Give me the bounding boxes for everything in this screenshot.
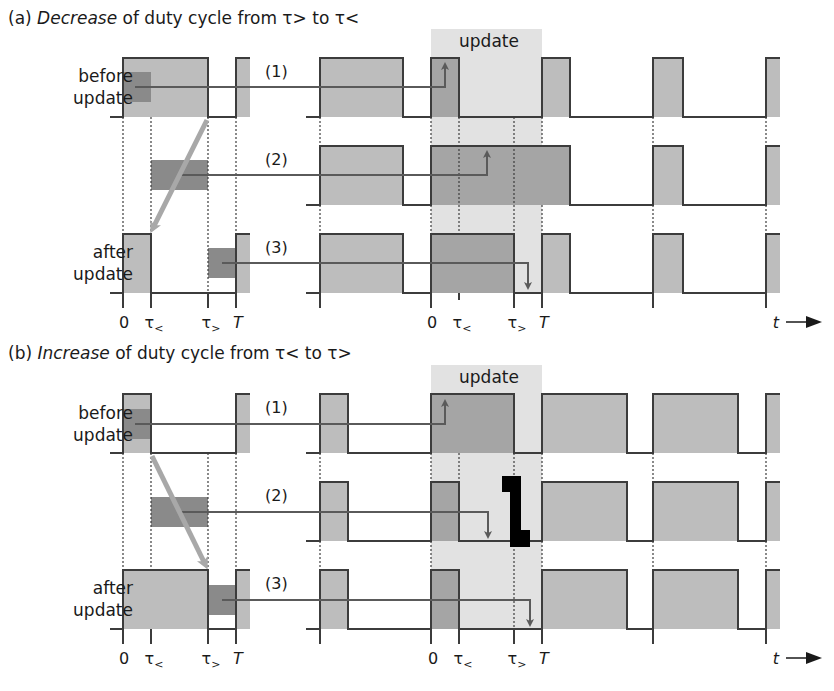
tick-tau-less: τ< [145, 649, 164, 671]
row-label-after-update: after update [13, 577, 133, 621]
row-label-after-update: after update [13, 241, 133, 285]
tick-tau-less: τ< [145, 313, 164, 335]
time-axis-label: t [773, 649, 779, 668]
tick-tau-less: τ< [454, 649, 473, 671]
case-label-2: (2) [265, 486, 288, 505]
tick-0: 0 [119, 313, 129, 332]
tick-0: 0 [427, 313, 437, 332]
case-label-3: (3) [265, 238, 288, 257]
row-label-before-update: before update [13, 65, 133, 109]
tick-tau-greater: τ> [202, 313, 221, 335]
tick-T: T [233, 313, 243, 332]
panel-b [110, 365, 822, 664]
arrow-case-1 [135, 403, 445, 424]
case-label-1: (1) [265, 62, 288, 81]
tick-tau-greater: τ> [508, 313, 527, 335]
tick-tau-less: τ< [453, 313, 472, 335]
time-axis-label: t [773, 313, 779, 332]
case-label-2: (2) [265, 150, 288, 169]
row-label-before-update: before update [13, 402, 133, 446]
update-label: update [459, 31, 519, 51]
tick-T: T [539, 649, 549, 668]
panel-a [110, 29, 822, 328]
tick-0: 0 [428, 649, 438, 668]
time-arrow-icon [806, 652, 822, 664]
update-label: update [459, 367, 519, 387]
tick-T: T [233, 649, 243, 668]
tick-tau-greater: τ> [508, 649, 527, 671]
case-label-1: (1) [265, 398, 288, 417]
tick-T: T [539, 313, 549, 332]
case-label-3: (3) [265, 574, 288, 593]
time-arrow-icon [806, 316, 822, 328]
tick-tau-greater: τ> [202, 649, 221, 671]
tick-0: 0 [119, 649, 129, 668]
